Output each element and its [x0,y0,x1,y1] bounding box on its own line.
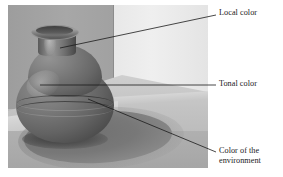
annotation-label-local-color: Local color [219,8,257,18]
photograph [8,5,208,168]
annotation-label-tonal-color: Tonal color [219,79,257,89]
figure-annotated-vase-diagram: Local color Tonal color Color of the env… [0,0,283,177]
annotation-label-color-of-the-environment: Color of the environment [219,146,261,165]
vase-rim-opening [36,26,73,35]
vase-groove-ring-lower [17,101,113,117]
